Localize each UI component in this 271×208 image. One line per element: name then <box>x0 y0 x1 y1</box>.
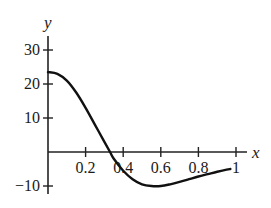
x-tick-label: 1 <box>232 159 240 176</box>
y-tick-label: 20 <box>24 75 40 92</box>
x-tick-label: 0.2 <box>76 159 96 176</box>
x-tick-label: 0.6 <box>151 159 171 176</box>
y-tick-label: −10 <box>15 177 40 194</box>
y-tick-label: 30 <box>24 41 40 58</box>
y-tick-label: 10 <box>24 109 40 126</box>
line-chart: 0.20.40.60.81−10102030 x y <box>0 0 271 208</box>
x-axis-label: x <box>251 143 260 162</box>
x-tick-label: 0.8 <box>188 159 208 176</box>
y-axis-label: y <box>42 13 52 32</box>
